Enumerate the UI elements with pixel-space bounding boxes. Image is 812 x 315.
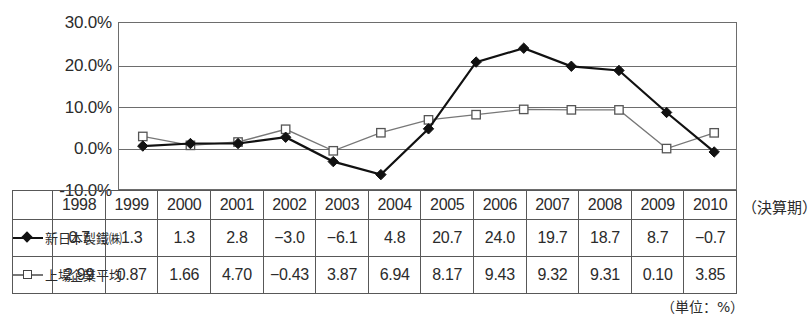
data-table: 1998199920002001200220032004200520062007… <box>12 190 737 294</box>
value-cell: 2.8 <box>211 220 264 257</box>
y-tick-label: 30.0% <box>8 14 112 31</box>
table-row: 新日本製鐵㈱ 0.71.31.32.8−3.0−6.14.820.724.019… <box>13 220 737 257</box>
value-cell: 3.85 <box>684 257 737 294</box>
value-cell: 4.8 <box>368 220 421 257</box>
data-point-diamond <box>519 43 529 53</box>
data-point-square <box>472 110 480 118</box>
value-cell: 9.32 <box>526 257 579 294</box>
data-point-square <box>615 106 623 114</box>
unit-note: （単位：%） <box>661 296 744 315</box>
year-header-cell: 2002 <box>263 191 316 220</box>
data-point-diamond <box>328 156 338 166</box>
y-tick-label: 0.0% <box>8 140 112 157</box>
table-header-row: 1998199920002001200220032004200520062007… <box>13 191 737 220</box>
value-cell: 8.7 <box>631 220 684 257</box>
value-cell: 9.31 <box>579 257 632 294</box>
value-cell: −3.0 <box>263 220 316 257</box>
value-cell: −0.7 <box>684 220 737 257</box>
filled-diamond-marker-icon <box>13 232 43 244</box>
legend-series-1: 新日本製鐵㈱ <box>13 220 53 257</box>
data-point-square <box>329 147 337 155</box>
data-table-wrap: 1998199920002001200220032004200520062007… <box>12 190 737 293</box>
year-header-cell: 2001 <box>211 191 264 220</box>
data-point-square <box>710 129 718 137</box>
value-cell: 18.7 <box>579 220 632 257</box>
value-cell: −0.43 <box>263 257 316 294</box>
year-header-cell: 2003 <box>316 191 369 220</box>
value-cell: 20.7 <box>421 220 474 257</box>
data-point-square <box>377 129 385 137</box>
year-header-cell: 2010 <box>684 191 737 220</box>
series-lines <box>119 23 738 191</box>
plot-area <box>118 22 737 190</box>
data-point-diamond <box>566 61 576 71</box>
value-cell: 4.70 <box>211 257 264 294</box>
year-header-cell: 2009 <box>631 191 684 220</box>
value-cell: 8.17 <box>421 257 474 294</box>
year-header-cell: 2000 <box>158 191 211 220</box>
y-axis-labels: 30.0% 20.0% 10.0% 0.0% -10.0% <box>0 0 112 200</box>
value-cell: 3.87 <box>316 257 369 294</box>
value-cell: 19.7 <box>526 220 579 257</box>
year-header-cell: 1999 <box>105 191 158 220</box>
table-corner-blank <box>13 191 53 220</box>
open-square-marker-icon <box>13 269 43 281</box>
value-cell: 1.66 <box>158 257 211 294</box>
data-point-square <box>567 106 575 114</box>
data-point-square <box>139 132 147 140</box>
data-point-square <box>520 105 528 113</box>
series-line-1 <box>143 48 714 174</box>
y-tick-label: 20.0% <box>8 57 112 74</box>
data-point-square <box>662 144 670 152</box>
year-header-cell: 2004 <box>368 191 421 220</box>
table-row: 上場企業平均 2.990.871.664.70−0.433.876.948.17… <box>13 257 737 294</box>
legend-series-2: 上場企業平均 <box>13 257 53 294</box>
year-header-cell: 2007 <box>526 191 579 220</box>
value-cell: 9.43 <box>474 257 527 294</box>
y-tick-label: 10.0% <box>8 99 112 116</box>
data-point-diamond <box>138 141 148 151</box>
value-cell: 6.94 <box>368 257 421 294</box>
year-header-cell: 2006 <box>474 191 527 220</box>
value-cell: −6.1 <box>316 220 369 257</box>
year-header-cell: 2005 <box>421 191 474 220</box>
value-cell: 1.3 <box>158 220 211 257</box>
period-note: （決算期） <box>742 196 812 217</box>
year-header-cell: 2008 <box>579 191 632 220</box>
year-header-cell: 1998 <box>53 191 106 220</box>
value-cell: 24.0 <box>474 220 527 257</box>
value-cell: 0.10 <box>631 257 684 294</box>
